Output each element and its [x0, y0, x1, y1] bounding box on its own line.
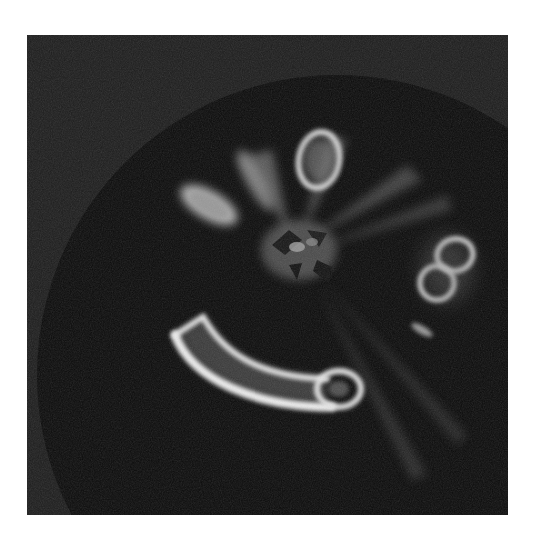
apple-illustration: [27, 35, 508, 515]
film-grain: [27, 35, 508, 515]
apple-photo: Grayscale close-up photograph of the top…: [27, 35, 508, 515]
